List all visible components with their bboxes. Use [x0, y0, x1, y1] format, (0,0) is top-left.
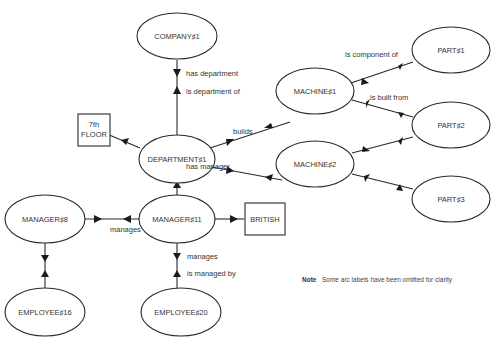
- node-label-line1: 7th: [89, 120, 99, 129]
- edge-machine2-part2: [352, 137, 413, 153]
- label-is-managed-by: is managed by: [187, 269, 236, 278]
- arrow-manager11-manager8: [123, 215, 131, 223]
- label-is-department-of: is department of: [186, 87, 241, 96]
- edge-machine2-part3: [352, 174, 413, 189]
- node-part1[interactable]: PART♯1: [412, 27, 490, 73]
- node-manager8[interactable]: MANAGER♯8: [5, 195, 85, 243]
- arrow-is-managed-by: [173, 270, 181, 277]
- node-label: EMPLOYEE♯20: [154, 308, 207, 317]
- note-label: Note: [302, 276, 317, 283]
- node-7th-floor[interactable]: 7th FLOOR: [78, 114, 110, 146]
- node-company1[interactable]: COMPANY♯1: [137, 13, 217, 59]
- node-label-line2: FLOOR: [81, 130, 107, 139]
- node-label: COMPANY♯1: [154, 32, 199, 41]
- arrow-part1-machine1: [398, 63, 403, 70]
- label-manages-left: manages: [110, 225, 141, 234]
- arrow-part2-machine2: [398, 137, 403, 145]
- node-label: MACHINE♯2: [294, 160, 337, 169]
- node-label: PART♯2: [437, 121, 464, 130]
- arrow-manages-employee20: [173, 253, 181, 260]
- arrow-machine2-dept: [265, 174, 273, 181]
- node-department1[interactable]: DEPARTMENT♯1: [139, 135, 215, 183]
- label-manages-down: manages: [187, 252, 218, 261]
- node-employee20[interactable]: EMPLOYEE♯20: [141, 288, 221, 336]
- node-label: BRITISH: [250, 215, 280, 224]
- label-has-department: has department: [186, 69, 239, 78]
- node-machine1[interactable]: MACHINE♯1: [276, 68, 354, 114]
- arrow-manager8-employee16: [41, 255, 49, 262]
- node-label: MACHINE♯1: [294, 87, 337, 96]
- edge-machine1-part2: [352, 100, 413, 117]
- node-employee16[interactable]: EMPLOYEE♯16: [5, 288, 85, 336]
- node-british[interactable]: BRITISH: [245, 203, 285, 235]
- label-builds: builds: [233, 127, 253, 136]
- node-part2[interactable]: PART♯2: [412, 102, 490, 148]
- note-text: Some arc labels have been omitted for cl…: [322, 276, 453, 284]
- node-part3[interactable]: PART♯3: [412, 176, 490, 222]
- arrow-to-floor: [121, 138, 129, 145]
- arrow-machine1-part1: [361, 78, 369, 85]
- semantic-network-diagram: COMPANY♯1 7th FLOOR DEPARTMENT♯1 MACHINE…: [0, 0, 502, 351]
- arrow-part2-machine1: [398, 112, 404, 118]
- arrow-is-department-of: [173, 86, 181, 94]
- arrow-manager11-british: [230, 215, 238, 223]
- node-label: MANAGER♯11: [152, 215, 201, 224]
- arrow-employee16-manager8: [41, 270, 49, 277]
- footnote: Note Some arc labels have been omitted f…: [302, 276, 453, 284]
- node-machine2[interactable]: MACHINE♯2: [276, 141, 354, 187]
- arrow-manager8-manager11: [94, 215, 102, 223]
- label-is-built-from: is built from: [370, 93, 408, 102]
- node-label: EMPLOYEE♯16: [18, 308, 71, 317]
- arrow-dept-machine1: [226, 139, 234, 146]
- arrow-machine1-dept: [264, 123, 273, 128]
- label-has-manager: has manager: [186, 162, 230, 171]
- node-label: PART♯1: [437, 46, 464, 55]
- label-is-component-of: is component of: [345, 50, 399, 59]
- edge-machine1-part1: [348, 62, 413, 84]
- node-manager11[interactable]: MANAGER♯11: [139, 195, 215, 243]
- arrow-has-department: [173, 69, 181, 77]
- node-label: PART♯3: [437, 195, 464, 204]
- node-label: MANAGER♯8: [22, 215, 68, 224]
